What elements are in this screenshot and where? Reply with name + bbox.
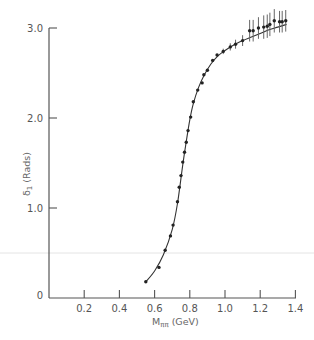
data-point [189, 115, 192, 118]
data-point [196, 88, 199, 91]
y-tick-label: 0 [37, 290, 43, 301]
x-tick-label: 1.4 [287, 303, 303, 314]
data-point [262, 25, 265, 28]
x-tick-label: 1.0 [217, 303, 233, 314]
x-axis-ticks: 0.20.40.60.81.01.21.4 [76, 290, 303, 314]
data-point [206, 69, 209, 72]
data-point [144, 280, 147, 283]
x-tick-label: 0.2 [76, 303, 92, 314]
y-tick-label: 3.0 [27, 23, 43, 34]
fit-curve [146, 24, 287, 281]
data-point [281, 20, 284, 23]
axes [49, 28, 296, 298]
data-point [222, 50, 225, 53]
data-point [181, 160, 184, 163]
x-tick-label: 0.4 [111, 303, 127, 314]
data-point [176, 200, 179, 203]
data-point [251, 29, 254, 32]
data-point [163, 249, 166, 252]
data-point [169, 234, 172, 237]
data-point [157, 266, 160, 269]
data-point [229, 45, 232, 48]
data-point [202, 73, 205, 76]
data-point [192, 100, 195, 103]
data-point [183, 151, 186, 154]
data-point [186, 129, 189, 132]
x-tick-label: 0.8 [182, 303, 198, 314]
y-tick-label: 2.0 [27, 113, 43, 124]
data-point [284, 19, 287, 22]
y-tick-label: 1.0 [27, 203, 43, 214]
data-point [200, 81, 203, 84]
y-axis-label: δ1 (Rads) [21, 152, 34, 196]
data-point [185, 141, 188, 144]
data-point [273, 19, 276, 22]
data-point [234, 43, 237, 46]
data-point [215, 53, 218, 56]
data-point [241, 39, 244, 42]
data-point [171, 223, 174, 226]
data-point [248, 29, 251, 32]
data-point [257, 26, 260, 29]
x-tick-label: 0.6 [147, 303, 163, 314]
data-point [268, 23, 271, 26]
data-point [178, 186, 181, 189]
data-point [211, 59, 214, 62]
chart: 0.20.40.60.81.01.21.4 01.02.03.0 δ1 (Rad… [0, 0, 314, 340]
x-axis-label: Mππ (GeV) [152, 316, 199, 329]
data-point [179, 174, 182, 177]
x-tick-label: 1.2 [252, 303, 268, 314]
